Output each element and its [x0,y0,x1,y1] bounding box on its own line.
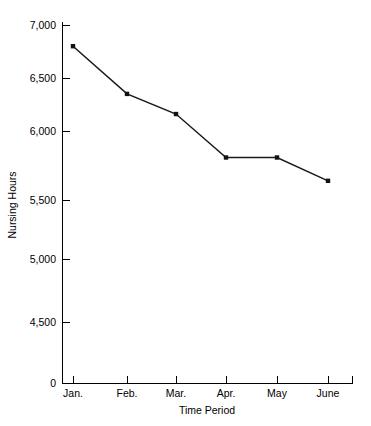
y-tick-label: 5,000 [30,253,56,265]
line-chart: 7,000 6,500 6,000 5,500 5,000 4,500 0 Ja… [0,0,371,426]
y-tick-label: 7,000 [30,19,56,31]
x-tick-label: May [267,387,288,399]
x-tick-label: Feb. [116,387,137,399]
x-tick-label: Apr. [217,387,236,399]
y-tick-label: 6,000 [30,125,56,137]
x-tick-label: Jan. [63,387,83,399]
y-tick-label: 5,500 [30,194,56,206]
data-point-marker [326,179,330,183]
data-point-marker [224,155,228,159]
x-tick-labels-group: Jan. Feb. Mar. Apr. May June [63,387,339,399]
y-tick-label: 6,500 [30,72,56,84]
y-tick-label-zero: 0 [50,377,56,389]
x-axis-title: Time Period [179,404,235,416]
chart-canvas: 7,000 6,500 6,000 5,500 5,000 4,500 0 Ja… [0,0,371,426]
series-line-nursing-hours [73,46,328,181]
data-point-marker [125,92,129,96]
data-point-marker [71,44,75,48]
data-series-group [71,44,330,183]
y-tick-labels-group: 7,000 6,500 6,000 5,500 5,000 4,500 0 [30,19,56,389]
series-markers [71,44,330,183]
y-tick-label: 4,500 [30,316,56,328]
x-tick-label: Mar. [166,387,186,399]
data-point-marker [174,112,178,116]
x-tick-label: June [317,387,340,399]
axes-group [62,22,353,384]
data-point-marker [275,155,279,159]
x-ticks-group [74,376,329,383]
y-axis-title: Nursing Hours [6,171,18,238]
